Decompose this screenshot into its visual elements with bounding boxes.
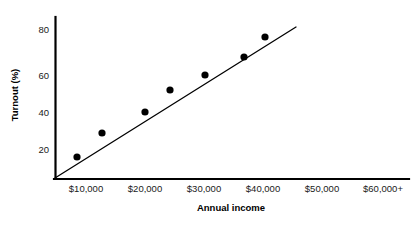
- x-tick-label-40000: $40,000: [246, 183, 280, 194]
- data-point: [141, 108, 148, 115]
- x-axis-title: Annual income: [197, 202, 265, 213]
- data-point: [201, 71, 208, 78]
- data-point: [98, 129, 105, 136]
- y-axis-title: Turnout (%): [9, 69, 20, 122]
- scatter-plot-svg: 80 60 40 20 $10,000 $20,000 $30,000 $40,…: [0, 0, 411, 225]
- y-tick-label-20: 20: [38, 144, 49, 155]
- y-tick-label-60: 60: [38, 70, 49, 81]
- x-tick-label-60000-plus: $60,000+: [363, 183, 403, 194]
- x-tick-label-20000: $20,000: [128, 183, 162, 194]
- chart-figure: 80 60 40 20 $10,000 $20,000 $30,000 $40,…: [0, 0, 411, 225]
- x-tick-label-10000: $10,000: [69, 183, 103, 194]
- y-tick-label-40: 40: [38, 107, 49, 118]
- y-tick-label-80: 80: [38, 24, 49, 35]
- data-point: [261, 33, 268, 40]
- x-tick-label-50000: $50,000: [305, 183, 339, 194]
- data-point: [73, 153, 80, 160]
- data-point: [240, 53, 247, 60]
- x-tick-label-30000: $30,000: [187, 183, 221, 194]
- trend-line: [55, 27, 296, 178]
- data-point: [166, 86, 173, 93]
